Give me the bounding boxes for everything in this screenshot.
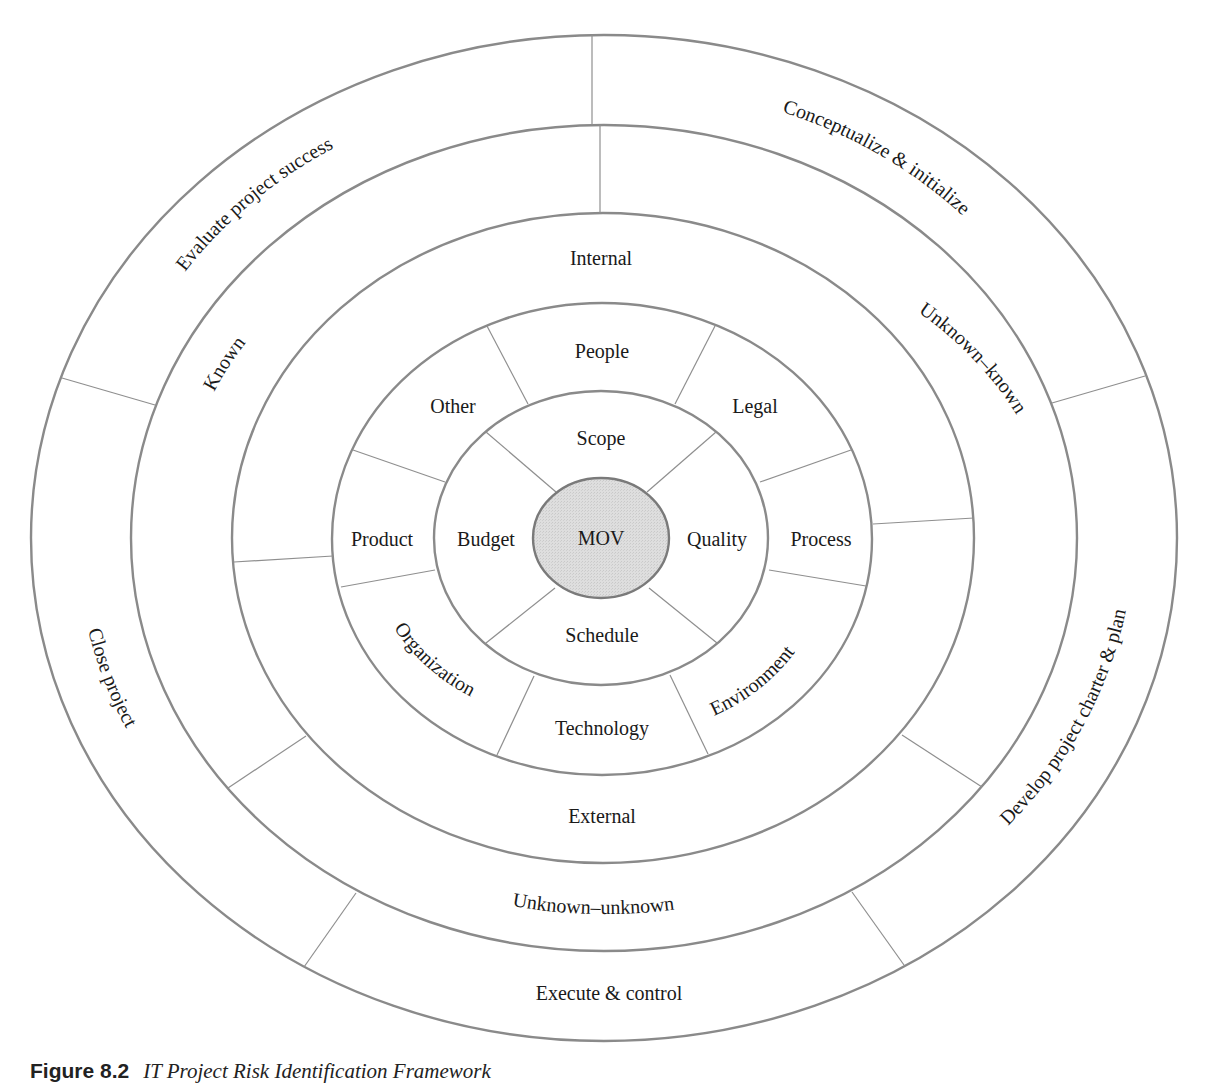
segment-close-project: Close project bbox=[84, 625, 142, 731]
segment-other: Other bbox=[430, 395, 476, 417]
segment-schedule: Schedule bbox=[565, 624, 638, 646]
caption-number: Figure 8.2 bbox=[30, 1059, 129, 1082]
segment-unknown-unknown: Unknown–unknown bbox=[511, 888, 675, 918]
segment-internal: Internal bbox=[570, 247, 633, 269]
segment-budget: Budget bbox=[457, 528, 515, 551]
caption-text: IT Project Risk Identification Framework bbox=[143, 1059, 491, 1083]
segment-legal: Legal bbox=[732, 395, 778, 418]
segment-execute-control: Execute & control bbox=[536, 982, 683, 1004]
segment-product: Product bbox=[351, 528, 414, 550]
segment-process: Process bbox=[790, 528, 851, 550]
segment-technology: Technology bbox=[555, 717, 649, 740]
segment-people: People bbox=[575, 340, 630, 363]
center-label: MOV bbox=[578, 527, 625, 549]
segment-unknown-known: Unknown–known bbox=[916, 297, 1032, 417]
segment-quality: Quality bbox=[687, 528, 747, 551]
segment-scope: Scope bbox=[577, 427, 626, 450]
segment-external: External bbox=[568, 805, 636, 827]
figure-caption: Figure 8.2IT Project Risk Identification… bbox=[30, 1059, 491, 1084]
segment-organization: Organization bbox=[391, 618, 480, 700]
segment-known: Known bbox=[198, 332, 249, 394]
segment-evaluate-project-success: Evaluate project success bbox=[171, 132, 336, 275]
segment-environment: Environment bbox=[706, 641, 798, 720]
